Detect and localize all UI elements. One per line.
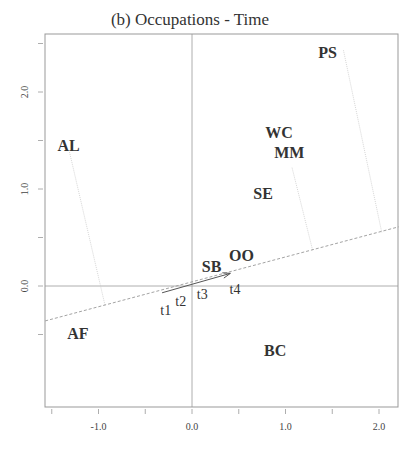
- x-tick-label: 1.0: [279, 421, 292, 432]
- y-tick-label: 1.0: [19, 183, 30, 196]
- chart-canvas: (b) Occupations - Time -1.00.01.02.00.01…: [0, 0, 414, 450]
- occupation-label-bc: BC: [264, 342, 286, 359]
- projection-line-mm: [292, 168, 313, 250]
- plot-area: -1.00.01.02.00.01.02.0PSWCMMSEALAFBCSBOO…: [19, 34, 399, 432]
- occupation-label-wc: WC: [265, 124, 293, 141]
- projection-line-al: [70, 152, 106, 305]
- chart-title: (b) Occupations - Time: [111, 10, 269, 29]
- occupation-label-se: SE: [253, 185, 273, 202]
- time-label-t2: t2: [175, 294, 186, 309]
- time-label-t1: t1: [160, 303, 171, 318]
- time-label-t3: t3: [197, 287, 208, 302]
- time-projection-axis: [45, 227, 398, 321]
- time-label-t4: t4: [230, 282, 241, 297]
- occupation-label-oo: OO: [229, 247, 254, 264]
- y-tick-label: 0.0: [19, 280, 30, 293]
- occupation-label-af: AF: [67, 325, 89, 342]
- occupation-label-sb: SB: [202, 258, 222, 275]
- occupation-label-ps: PS: [318, 44, 337, 61]
- projection-line-ps: [343, 50, 381, 232]
- x-tick-label: 0.0: [186, 421, 199, 432]
- x-tick-label: 2.0: [373, 421, 386, 432]
- y-tick-label: 2.0: [19, 86, 30, 99]
- plot-frame: [45, 34, 398, 407]
- occupation-label-al: AL: [57, 137, 79, 154]
- x-tick-label: -1.0: [91, 421, 107, 432]
- occupation-label-mm: MM: [274, 144, 304, 161]
